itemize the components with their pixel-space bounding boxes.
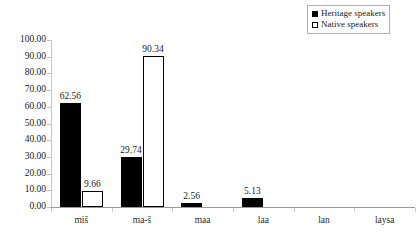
- x-axis-tick-mark: [415, 208, 416, 212]
- bar-heritage-3: [242, 198, 263, 207]
- bar-value-label: 62.56: [52, 91, 88, 101]
- y-axis-tick-label: 90.00: [1, 52, 46, 62]
- bar-heritage-1: [121, 157, 142, 207]
- x-axis-tick-mark: [354, 208, 355, 212]
- x-axis-tick-mark: [172, 208, 173, 212]
- legend-label-heritage-speakers: Heritage speakers: [321, 8, 385, 19]
- x-axis-tick-mark: [233, 208, 234, 212]
- bar-native-1: [143, 56, 164, 207]
- legend-swatch-filled-icon: [312, 11, 318, 17]
- bar-value-label: 29.74: [113, 145, 149, 155]
- x-axis-category-label: maa: [172, 215, 233, 226]
- legend-item-heritage-speakers: Heritage speakers: [312, 8, 385, 19]
- x-axis-category-label: miš: [51, 215, 112, 226]
- legend-label-native-speakers: Native speakers: [321, 19, 378, 30]
- legend-swatch-hollow-icon: [312, 22, 318, 28]
- y-axis-tick-label: 80.00: [1, 68, 46, 78]
- bar-heritage-0: [60, 103, 81, 207]
- bar-value-label: 2.56: [174, 191, 210, 201]
- y-axis-tick-label: 30.00: [1, 152, 46, 162]
- legend-item-native-speakers: Native speakers: [312, 19, 385, 30]
- y-axis-tick-label: 70.00: [1, 85, 46, 95]
- bar-value-label: 5.13: [234, 186, 270, 196]
- bar-value-label: 90.34: [135, 44, 171, 54]
- y-axis-tick-label: 100.00: [1, 35, 46, 45]
- x-axis-category-label: ma-š: [112, 215, 173, 226]
- bar-native-0: [82, 191, 103, 207]
- y-axis-tick-label: 20.00: [1, 169, 46, 179]
- bar-value-label: 9.66: [74, 179, 110, 189]
- y-axis-tick-label: 50.00: [1, 119, 46, 129]
- x-axis-category-label: laa: [233, 215, 294, 226]
- chart-legend: Heritage speakers Native speakers: [307, 5, 390, 34]
- y-axis-labels: 0.0010.0020.0030.0040.0050.0060.0070.008…: [0, 0, 46, 241]
- y-axis-tick-label: 40.00: [1, 135, 46, 145]
- bar-chart: Heritage speakers Native speakers 0.0010…: [0, 0, 420, 241]
- x-axis-tick-mark: [51, 208, 52, 212]
- y-axis-tick-label: 0.00: [1, 202, 46, 212]
- x-axis-category-label: laysa: [354, 215, 415, 226]
- x-axis-category-label: lan: [294, 215, 355, 226]
- x-axis-tick-mark: [294, 208, 295, 212]
- y-axis-tick-label: 10.00: [1, 185, 46, 195]
- y-axis-tick-label: 60.00: [1, 102, 46, 112]
- x-axis-tick-mark: [112, 208, 113, 212]
- bar-heritage-2: [181, 203, 202, 207]
